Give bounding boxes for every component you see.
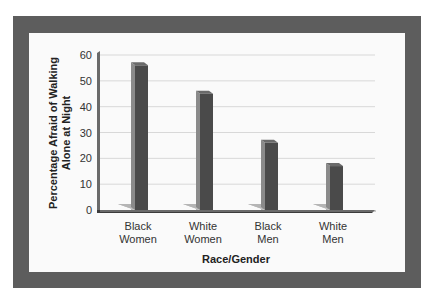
bars (118, 62, 343, 210)
y-tick-label: 30 (80, 127, 92, 139)
x-tick-label: White (189, 220, 217, 232)
x-tick-label: Black (255, 220, 282, 232)
bar-white-men (313, 163, 343, 210)
x-tick-label: Men (257, 233, 278, 245)
y-tick-label: 0 (86, 204, 92, 216)
y-tick-label: 10 (80, 178, 92, 190)
x-axis-categories: BlackWomenWhiteWomenBlackMenWhiteMen (119, 220, 347, 245)
y-tick-label: 50 (80, 75, 92, 87)
bar-chart: 0102030405060 BlackWomenWhiteWomenBlackM… (0, 0, 435, 302)
y-tick-label: 20 (80, 152, 92, 164)
bar-black-men (248, 140, 278, 210)
y-tick-label: 40 (80, 101, 92, 113)
bar-black-women (118, 62, 148, 210)
x-tick-label: Women (119, 233, 157, 245)
x-tick-label: Men (322, 233, 343, 245)
y-axis-title: Percentage Afraid of WalkingAlone at Nig… (47, 57, 72, 209)
y-axis-wall (97, 51, 100, 212)
x-axis-title: Race/Gender (202, 253, 271, 265)
x-tick-label: Women (184, 233, 222, 245)
y-axis-ticks: 0102030405060 (80, 49, 92, 216)
x-tick-label: White (319, 220, 347, 232)
y-tick-label: 60 (80, 49, 92, 61)
y-axis-title-line: Alone at Night (60, 95, 72, 170)
bar-white-women (183, 91, 213, 210)
x-tick-label: Black (125, 220, 152, 232)
y-axis-title-line: Percentage Afraid of Walking (47, 57, 59, 209)
